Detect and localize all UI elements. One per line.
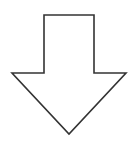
- diagram-canvas: [0, 0, 139, 143]
- arrow-down-icon: [0, 0, 139, 143]
- down-arrow-shape: [12, 15, 126, 134]
